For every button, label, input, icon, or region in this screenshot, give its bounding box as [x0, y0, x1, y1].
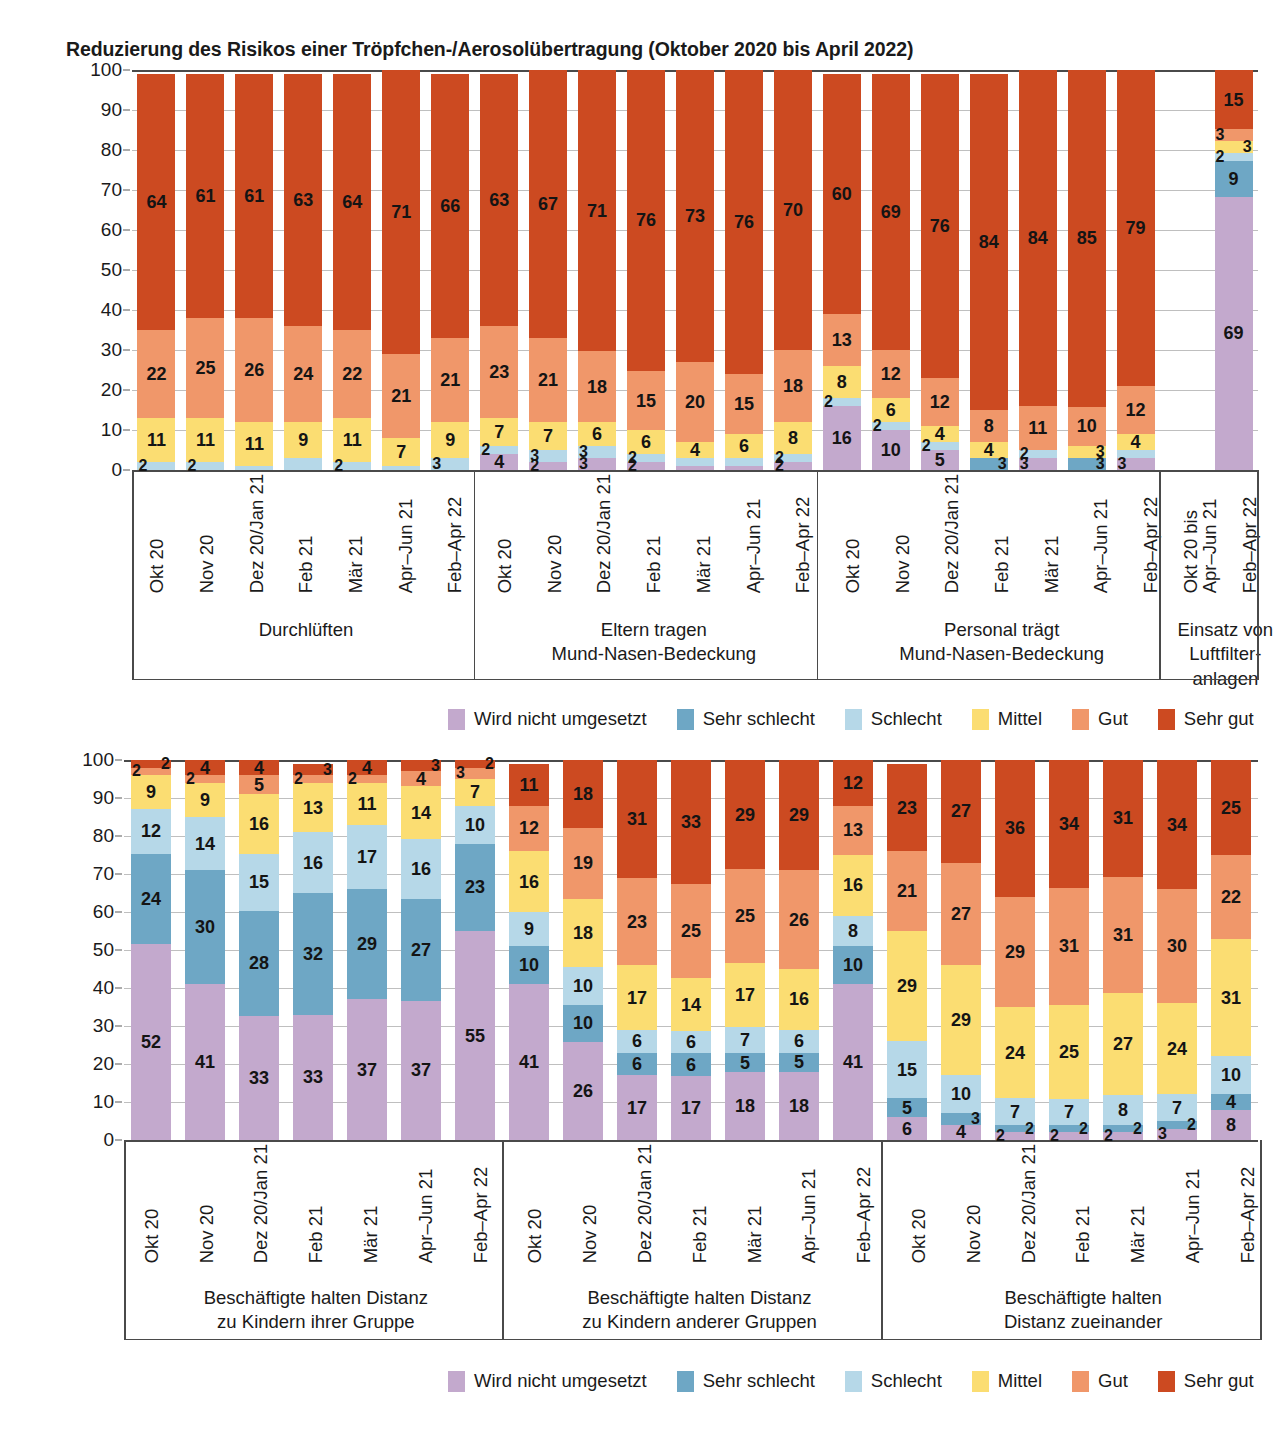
bar-segment-mittel[interactable]: 9 [431, 422, 469, 458]
bar-segment-sehr-gut[interactable]: 64 [137, 74, 175, 330]
bar-slot[interactable]: 72171 [377, 70, 426, 470]
bar-segment-sehr-schlecht[interactable]: 6 [671, 1053, 711, 1076]
bar-slot[interactable]: 2372167 [524, 70, 573, 470]
bar-segment-sehr-schlecht[interactable]: 5 [779, 1053, 819, 1072]
bar-segment-gut[interactable]: 27 [941, 863, 981, 966]
stacked-bar[interactable]: 2112264 [333, 70, 371, 470]
bar-segment-schlecht[interactable]: 2 [872, 422, 910, 430]
bar-segment-gut[interactable]: 25 [186, 318, 224, 418]
legend-item-sehr-schlecht[interactable]: Sehr schlecht [677, 1370, 815, 1392]
bar-slot[interactable]: 227253134 [1042, 760, 1096, 1140]
bar-slot[interactable]: 16281360 [817, 70, 866, 470]
bar-segment-gut[interactable]: 22 [333, 330, 371, 418]
bar-segment-mittel[interactable]: 29 [941, 965, 981, 1075]
bar-segment-gut[interactable]: 26 [235, 318, 273, 422]
bar-segment-mittel[interactable]: 16 [779, 969, 819, 1030]
bar-segment-mittel[interactable]: 7 [529, 422, 567, 450]
bar-slot[interactable]: 10261269 [866, 70, 915, 470]
bar-segment-sehr-schlecht[interactable]: 9 [1215, 161, 1253, 197]
bar-segment-gut[interactable]: 18 [578, 351, 616, 422]
bar-segment-sehr-gut[interactable]: 71 [578, 70, 616, 351]
bar-segment-sehr-gut[interactable]: 76 [725, 70, 763, 374]
bar-segment-gut[interactable]: 21 [382, 354, 420, 438]
bar-segment-mittel[interactable]: 11 [186, 418, 224, 462]
bar-segment-wird-nicht-umgesetzt[interactable]: 17 [617, 1075, 657, 1140]
bar-segment-sehr-schlecht[interactable]: 10 [833, 946, 873, 984]
bar-segment-wird-nicht-umgesetzt[interactable]: 10 [872, 430, 910, 470]
stacked-bar[interactable]: 10261269 [872, 70, 910, 470]
bar-segment-sehr-gut[interactable]: 76 [627, 70, 665, 371]
bar-segment-gut[interactable]: 19 [563, 828, 603, 899]
bar-segment-sehr-gut[interactable]: 60 [823, 74, 861, 314]
bar-segment-schlecht[interactable]: 10 [455, 806, 495, 844]
bar-segment-sehr-gut[interactable]: 79 [1117, 70, 1155, 386]
stacked-bar[interactable]: 69923315 [1215, 70, 1253, 470]
bar-slot[interactable]: 2261576 [622, 70, 671, 470]
bar-slot[interactable]: 331085 [1062, 70, 1111, 470]
bar-segment-gut[interactable]: 24 [284, 326, 322, 422]
stacked-bar[interactable] [1166, 70, 1204, 470]
bar-slot[interactable]: 3332161323 [286, 760, 340, 1140]
stacked-bar[interactable]: 321184 [1019, 70, 1057, 470]
bar-segment-mittel[interactable]: 31 [1211, 939, 1251, 1057]
stacked-bar[interactable]: 413014924 [185, 760, 225, 1140]
bar-segment-sehr-gut[interactable]: 4 [239, 760, 279, 775]
bar-segment-sehr-gut[interactable]: 69 [872, 74, 910, 350]
bar-segment-sehr-gut[interactable]: 33 [671, 760, 711, 884]
bar-segment-mittel[interactable]: 25 [1049, 1005, 1089, 1099]
bar-segment-wird-nicht-umgesetzt[interactable]: 41 [509, 984, 549, 1140]
bar-segment-sehr-gut[interactable]: 36 [995, 760, 1035, 897]
bar-segment-wird-nicht-umgesetzt[interactable]: 37 [347, 999, 387, 1140]
stacked-bar[interactable]: 341279 [1117, 70, 1155, 470]
bar-segment-sehr-gut[interactable]: 67 [529, 70, 567, 338]
legend-item-gut[interactable]: Gut [1072, 708, 1128, 730]
bar-segment-schlecht[interactable]: 12 [131, 809, 171, 854]
bar-segment-schlecht[interactable]: 3 [578, 446, 616, 458]
bar-segment-sehr-schlecht[interactable]: 6 [617, 1053, 657, 1076]
stacked-bar[interactable]: 3729171124 [347, 760, 387, 1140]
bar-segment-mittel[interactable]: 17 [725, 963, 765, 1027]
bar-segment-wird-nicht-umgesetzt[interactable]: 17 [671, 1076, 711, 1140]
bar-segment-sehr-gut[interactable]: 61 [186, 74, 224, 318]
bar-segment-schlecht[interactable]: 8 [833, 916, 873, 946]
bar-slot[interactable]: 61576 [719, 70, 768, 470]
bar-segment-sehr-gut[interactable]: 34 [1049, 760, 1089, 888]
bar-segment-sehr-gut[interactable]: 25 [1211, 760, 1251, 855]
stacked-bar[interactable]: 42073 [676, 70, 714, 470]
stacked-bar[interactable]: 2281870 [774, 70, 812, 470]
bar-segment-schlecht[interactable]: 15 [239, 854, 279, 910]
bar-segment-sehr-gut[interactable]: 84 [1019, 70, 1057, 406]
bar-segment-sehr-gut[interactable]: 31 [1103, 760, 1143, 877]
bar-slot[interactable]: 321184 [1013, 70, 1062, 470]
bar-segment-sehr-gut[interactable]: 31 [617, 760, 657, 878]
bar-segment-mittel[interactable]: 13 [293, 783, 333, 832]
stacked-bar[interactable]: 227253134 [1049, 760, 1089, 1140]
bar-segment-schlecht[interactable]: 6 [617, 1030, 657, 1053]
stacked-bar[interactable]: 331085 [1068, 70, 1106, 470]
bar-slot[interactable]: 261010181918 [556, 760, 610, 1140]
bar-segment-sehr-gut[interactable]: 12 [833, 760, 873, 806]
bar-segment-mittel[interactable]: 6 [725, 434, 763, 458]
bar-slot[interactable]: 522412922 [124, 760, 178, 1140]
stacked-bar[interactable]: 3727161443 [401, 760, 441, 1140]
bar-segment-mittel[interactable]: 3 [1068, 446, 1106, 458]
bar-slot[interactable]: 228273131 [1096, 760, 1150, 1140]
bar-slot[interactable]: 34884 [964, 70, 1013, 470]
bar-segment-mittel[interactable]: 16 [509, 851, 549, 912]
bar-segment-sehr-gut[interactable]: 18 [563, 760, 603, 828]
legend-item-mittel[interactable]: Mittel [972, 1370, 1042, 1392]
bar-segment-gut[interactable]: 22 [137, 330, 175, 418]
bar-slot[interactable]: 41108161312 [826, 760, 880, 1140]
bar-segment-gut[interactable]: 23 [617, 878, 657, 965]
bar-segment-schlecht[interactable]: 2 [137, 462, 175, 470]
bar-segment-gut[interactable]: 8 [970, 410, 1008, 442]
bar-segment-schlecht[interactable]: 10 [563, 967, 603, 1005]
stacked-bar[interactable]: 522412922 [131, 760, 171, 1140]
bar-segment-wird-nicht-umgesetzt[interactable]: 3 [1117, 458, 1155, 470]
bar-segment-wird-nicht-umgesetzt[interactable]: 33 [239, 1016, 279, 1140]
bar-segment-sehr-schlecht[interactable]: 10 [563, 1005, 603, 1043]
bar-segment-sehr-gut[interactable]: 66 [431, 74, 469, 338]
bar-segment-sehr-schlecht[interactable]: 23 [455, 844, 495, 931]
bar-slot[interactable]: 92463 [279, 70, 328, 470]
stacked-bar[interactable]: 1766142533 [671, 760, 711, 1140]
